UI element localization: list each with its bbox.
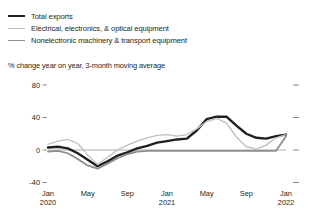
x-axis-tick-label: Jan (42, 189, 54, 198)
chart-plot-area: 80400-40 Jan2020MaySepJan2021MaySepJan20… (0, 0, 310, 223)
x-axis-tick-year-label: 2022 (278, 198, 294, 207)
x-axis-tick-label: May (81, 189, 95, 198)
y-axis-tick-label: 0 (36, 146, 40, 155)
x-axis-tick-year-label: 2021 (159, 198, 175, 207)
series-line-total-exports (48, 117, 286, 167)
x-axis-tick-label: May (200, 189, 214, 198)
series-lines (48, 117, 286, 169)
export-growth-line-chart: Total exports Electrical, electronics, &… (0, 0, 310, 223)
y-axis-tick-label: 40 (32, 113, 40, 122)
x-axis: Jan2020MaySepJan2021MaySepJan2022 (40, 189, 294, 207)
y-axis: 80400-40 (29, 81, 299, 188)
x-axis-tick-year-label: 2020 (40, 198, 56, 207)
x-axis-tick-label: Sep (121, 189, 134, 198)
x-axis-tick-label: Jan (161, 189, 173, 198)
y-axis-tick-label: -40 (29, 178, 40, 187)
x-axis-tick-label: Sep (240, 189, 253, 198)
x-axis-tick-label: Jan (280, 189, 292, 198)
y-axis-tick-label: 80 (32, 81, 40, 90)
